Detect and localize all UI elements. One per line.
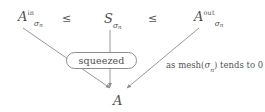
term-outer-approximation: Aoutσn <box>194 10 223 26</box>
term-sum-subsubscript: n <box>118 24 122 30</box>
target-limit-label: A <box>113 94 122 107</box>
term-inner-approximation: Ainσn <box>18 10 43 26</box>
arrow-right-to-target <box>127 28 199 88</box>
term-sum: Sσn <box>104 12 122 28</box>
term-sum-base: S <box>104 11 113 26</box>
mesh-note-suffix: ) tends to 0 <box>214 60 263 70</box>
mesh-limit-annotation: as mesh(σn) tends to 0 <box>166 61 263 72</box>
term-outer-superscript: out <box>203 9 214 17</box>
term-inner-subsubscript: n <box>39 22 43 28</box>
term-inner-base: A <box>18 9 27 24</box>
mesh-note-prefix: as mesh( <box>166 60 204 70</box>
term-outer-base: A <box>194 9 203 24</box>
squeeze-theorem-diagram: Ainσn ≤ Sσn ≤ Aoutσn squeezed as mesh(σn… <box>0 0 265 112</box>
relation-operator-1: ≤ <box>62 13 71 24</box>
term-outer-subsubscript: n <box>220 22 224 28</box>
squeezed-label: squeezed <box>67 53 136 68</box>
term-inner-superscript: in <box>27 9 34 17</box>
squeezed-pill: squeezed <box>66 52 137 69</box>
mesh-note-subscript: n <box>210 66 214 73</box>
relation-operator-2: ≤ <box>148 13 157 24</box>
